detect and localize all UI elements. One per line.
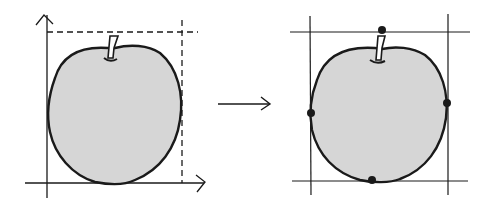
right-panel (290, 14, 470, 195)
bottom-extreme-point (368, 176, 376, 184)
left-extreme-point (307, 109, 315, 117)
y-axis-arrowhead-icon (36, 15, 53, 25)
left-panel (25, 15, 205, 198)
right-extreme-point (443, 99, 451, 107)
apple-shape (310, 47, 446, 182)
apple-bounding-box-diagram (0, 0, 480, 209)
transform-arrow (218, 97, 270, 110)
top-extreme-point (378, 26, 386, 34)
apple-shape (48, 46, 181, 184)
